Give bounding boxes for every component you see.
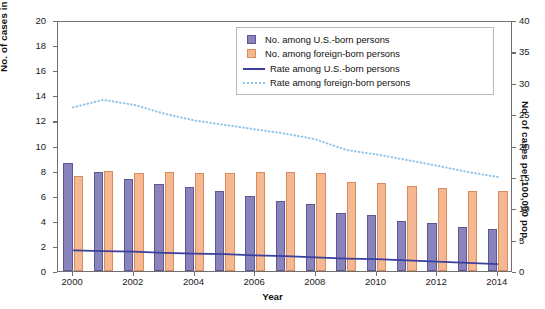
legend-item-us-born-number: No. among U.S.-born persons xyxy=(243,32,487,47)
y-tick-label: 16 xyxy=(28,66,46,76)
x-tick-label: 2006 xyxy=(244,276,265,287)
line-dotted-icon xyxy=(243,78,265,87)
y-tick-mark xyxy=(53,272,57,273)
swatch-purple-icon xyxy=(247,35,256,44)
y2-tick-label: 30 xyxy=(519,79,530,89)
y-tick-label: 2 xyxy=(28,242,46,252)
x-tick-label: 2000 xyxy=(62,276,83,287)
legend-label: Rate among U.S.-born persons xyxy=(270,64,400,73)
y2-tick-label: 35 xyxy=(519,47,530,57)
y-tick-label: 8 xyxy=(28,167,46,177)
y2-tick-label: 15 xyxy=(519,173,530,183)
y-tick-label: 0 xyxy=(28,267,46,277)
legend-item-us-born-rate: Rate among U.S.-born persons xyxy=(243,61,487,76)
x-tick-label: 2008 xyxy=(304,276,325,287)
y-tick-label: 12 xyxy=(28,116,46,126)
swatch-orange-icon xyxy=(247,49,256,58)
y-tick-label: 14 xyxy=(28,91,46,101)
y2-tick-label: 5 xyxy=(519,236,524,246)
y2-tick-label: 0 xyxy=(519,267,524,277)
y2-tick-label: 25 xyxy=(519,110,530,120)
legend-item-foreign-born-rate: Rate among foreign-born persons xyxy=(243,76,487,91)
x-axis-title: Year xyxy=(0,291,545,302)
line-us-born-rate xyxy=(73,250,498,264)
y2-tick-label: 20 xyxy=(519,142,530,152)
y-tick-label: 18 xyxy=(28,41,46,51)
y2-tick-label: 40 xyxy=(519,16,530,26)
x-tick-label: 2010 xyxy=(365,276,386,287)
y-tick-label: 6 xyxy=(28,192,46,202)
legend-label: Rate among foreign-born persons xyxy=(270,78,410,87)
x-tick-label: 2004 xyxy=(183,276,204,287)
y2-tick-label: 10 xyxy=(519,204,530,214)
y-axis-left-title: No. of cases in thousands xyxy=(0,0,9,95)
y-tick-label: 4 xyxy=(28,217,46,227)
line-solid-icon xyxy=(243,64,265,73)
y-tick-label: 10 xyxy=(28,142,46,152)
line-foreign-born-rate xyxy=(73,100,498,177)
legend-item-foreign-born-number: No. among foreign-born persons xyxy=(243,47,487,62)
x-tick-label: 2012 xyxy=(426,276,447,287)
y-tick-label: 20 xyxy=(28,16,46,26)
chart-legend: No. among U.S.-born persons No. among fo… xyxy=(236,27,494,95)
chart-container: No. of cases in thousands No. of cases p… xyxy=(0,0,545,309)
legend-label: No. among foreign-born persons xyxy=(265,49,400,58)
legend-label: No. among U.S.-born persons xyxy=(265,35,390,44)
x-tick-label: 2002 xyxy=(122,276,143,287)
x-tick-label: 2014 xyxy=(486,276,507,287)
